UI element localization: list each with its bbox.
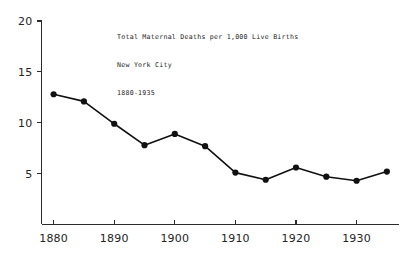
- y-tick-label-group: 5101520: [18, 15, 32, 181]
- y-tick-group: [37, 21, 42, 174]
- x-tick-label-1880: 1880: [39, 232, 68, 245]
- data-point-1900: [172, 131, 178, 137]
- x-tick-label-1890: 1890: [100, 232, 129, 245]
- data-point-1905: [202, 143, 208, 149]
- x-tick-label-1900: 1900: [160, 232, 189, 245]
- data-point-1880: [51, 91, 57, 97]
- data-point-1910: [232, 170, 238, 176]
- data-point-1930: [353, 178, 359, 184]
- x-tick-group: [54, 220, 357, 225]
- data-series-line: [54, 94, 387, 180]
- y-tick-label-15: 15: [18, 66, 32, 79]
- data-point-1915: [263, 177, 269, 183]
- x-tick-label-1930: 1930: [342, 232, 371, 245]
- y-tick-label-5: 5: [25, 168, 32, 181]
- data-point-1920: [293, 164, 299, 170]
- y-tick-label-10: 10: [18, 117, 32, 130]
- x-tick-label-1910: 1910: [221, 232, 250, 245]
- data-point-1925: [323, 174, 329, 180]
- chart-container: Total Maternal Deaths per 1,000 Live Bir…: [0, 0, 407, 273]
- line-chart-plot: 5101520 188018901900191019201930: [0, 0, 407, 273]
- data-point-1895: [141, 142, 147, 148]
- data-point-1935: [384, 168, 390, 174]
- y-tick-label-20: 20: [18, 15, 32, 28]
- x-tick-label-1920: 1920: [282, 232, 311, 245]
- data-point-1885: [81, 98, 87, 104]
- x-tick-label-group: 188018901900191019201930: [39, 232, 371, 245]
- data-point-1890: [111, 121, 117, 127]
- data-point-markers: [51, 91, 390, 184]
